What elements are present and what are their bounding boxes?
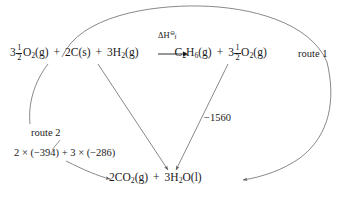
- formation-subscript: f: [175, 34, 177, 40]
- route2-enthalpy-sum: 2 × (−394) + 3 × (−286): [14, 148, 115, 159]
- route2-arc-lower: [66, 161, 110, 179]
- route2-label: route 2: [31, 128, 60, 139]
- reactants-equation: 312O2(g)+2C(s)+3H2(g)C2H6(g)+312O2(g): [10, 44, 267, 62]
- plus-sign-2: +: [96, 46, 103, 58]
- route1-label: route 1: [298, 49, 327, 60]
- combustion-enthalpy-value: −1560: [204, 113, 231, 124]
- plus-sign-1: +: [54, 46, 61, 58]
- hydrogen-term: 3H2(g): [107, 46, 138, 58]
- products-equation: 2CO2(g)+3H2O(l): [109, 172, 202, 185]
- plus-sign-3: +: [217, 46, 224, 58]
- co2-term: 2CO2(g): [109, 171, 148, 183]
- route1-arc: [243, 62, 331, 180]
- ethane-term: C2H6(g): [174, 46, 211, 58]
- delta-h-formation-label: ΔH⊖f: [158, 30, 177, 40]
- o2-coefficient-left: 312: [10, 46, 23, 58]
- o2-coefficient-right: 312: [228, 46, 241, 58]
- o2-formula-left: O2(g): [23, 46, 49, 58]
- water-term: 3H2O(l): [165, 171, 202, 183]
- carbon-term: 2C(s): [65, 46, 91, 58]
- plus-sign-products: +: [153, 171, 160, 183]
- route2-arc-upper: [30, 64, 48, 124]
- o2-formula-right: O2(g): [241, 46, 267, 58]
